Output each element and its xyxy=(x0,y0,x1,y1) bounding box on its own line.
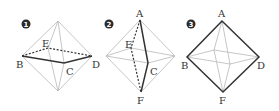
vertex-label-A: A xyxy=(135,8,144,19)
panel-2: 2 A E C F xyxy=(105,8,176,106)
vertex-label-F: F xyxy=(219,95,226,106)
step-badge-3-number: 3 xyxy=(189,21,194,29)
vertex-label-D: D xyxy=(257,60,265,71)
panel-1: 1 E B C D xyxy=(16,20,100,92)
vertex-label-A: A xyxy=(217,8,226,19)
panel-3: 3 A B D F xyxy=(181,8,265,106)
vertex-label-D: D xyxy=(92,59,100,70)
step-badge-2-number: 2 xyxy=(107,21,112,29)
vertex-label-C: C xyxy=(150,66,158,77)
vertex-label-B: B xyxy=(181,60,188,71)
octahedron-diagram: 1 E B C D 2 A E C F xyxy=(0,0,279,111)
vertex-label-C: C xyxy=(66,66,74,77)
step-badge-1-number: 1 xyxy=(24,21,29,29)
vertex-label-B: B xyxy=(16,59,23,70)
vertex-label-E: E xyxy=(125,39,132,50)
vertex-label-F: F xyxy=(137,95,144,106)
vertex-label-E: E xyxy=(42,38,49,49)
